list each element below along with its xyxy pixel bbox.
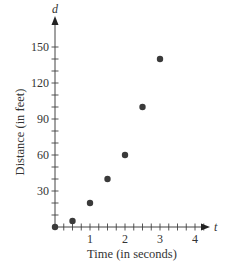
y-tick-label: 90: [37, 112, 49, 126]
data-point: [52, 224, 58, 230]
data-point: [157, 56, 163, 62]
distance-time-chart: 306090120150 1234 d t Time (in seconds) …: [0, 0, 227, 269]
x-tick-label: 1: [87, 232, 93, 246]
data-point: [87, 200, 93, 206]
y-axis-ticks: 306090120150: [31, 40, 59, 215]
x-axis-variable: t: [214, 220, 218, 234]
y-axis-variable: d: [52, 2, 59, 16]
y-axis-arrow-icon: [52, 16, 59, 25]
y-tick-label: 60: [37, 148, 49, 162]
x-tick-label: 3: [157, 232, 163, 246]
data-points: [52, 56, 163, 230]
data-point: [139, 104, 145, 110]
y-axis-title: Distance (in feet): [13, 89, 27, 176]
x-axis-title: Time (in seconds): [87, 247, 177, 261]
x-tick-label: 4: [192, 232, 198, 246]
x-tick-label: 2: [122, 232, 128, 246]
y-tick-label: 150: [31, 40, 49, 54]
y-tick-label: 120: [31, 76, 49, 90]
y-tick-label: 30: [37, 184, 49, 198]
data-point: [122, 152, 128, 158]
data-point: [69, 218, 75, 224]
x-axis-arrow-icon: [201, 224, 210, 231]
data-point: [104, 176, 110, 182]
